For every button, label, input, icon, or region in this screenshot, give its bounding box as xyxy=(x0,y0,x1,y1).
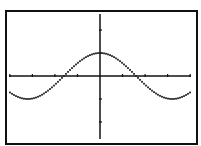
cosine-graph xyxy=(0,0,201,146)
